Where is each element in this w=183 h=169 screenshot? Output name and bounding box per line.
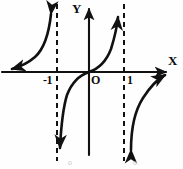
scan-artifact-right: o	[133, 158, 137, 167]
x-axis-label: X	[168, 54, 177, 67]
curve-branch-center-left	[60, 72, 89, 148]
curve-branch-center-right	[89, 17, 118, 72]
curve-branch-far-left	[12, 14, 51, 69]
x-tick-label-minus-1: -1	[43, 74, 52, 86]
x-tick-label-plus-1: 1	[127, 74, 133, 86]
graph-figure: Y X O -1 1 o o	[0, 0, 183, 169]
y-axis-label: Y	[72, 2, 81, 15]
scan-artifact-left: o	[68, 158, 72, 167]
curve-branch-far-right	[131, 75, 165, 150]
origin-label: O	[91, 74, 100, 86]
